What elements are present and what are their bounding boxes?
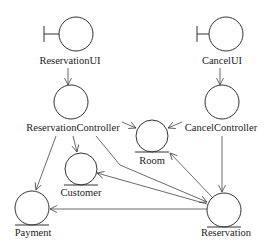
control-reservation-controller: ReservationController [26,85,120,133]
cancel-ui-label: CancelUI [202,55,243,66]
edge-reservationcontroller-to-room [122,122,136,128]
edge-reservationcontroller-to-reservation [96,136,207,202]
boundary-cancel-ui: CancelUI [197,17,243,66]
edge-reservation-to-room [170,153,212,197]
reservation-ui-label: ReservationUI [39,55,101,66]
payment-label: Payment [15,227,52,238]
control-cancel-controller: CancelController [185,85,258,133]
entity-payment: Payment [15,191,52,238]
robustness-diagram: ReservationUI CancelUI ReservationContro… [0,0,270,251]
entity-customer: Customer [61,153,102,198]
edge-reservation-to-customer [97,173,207,204]
room-label: Room [139,155,165,166]
edge-reservationcontroller-to-payment [36,136,56,190]
reservation-controller-label: ReservationController [26,122,120,133]
edge-reservationcontroller-to-customer [73,136,77,152]
reservation-label: Reservation [201,227,252,238]
entity-room: Room [135,120,169,166]
edge-cancelcontroller-to-room [168,122,182,128]
entity-reservation: Reservation [201,193,252,238]
cancel-controller-label: CancelController [185,122,258,133]
boundary-reservation-ui: ReservationUI [39,17,101,66]
customer-label: Customer [61,187,102,198]
